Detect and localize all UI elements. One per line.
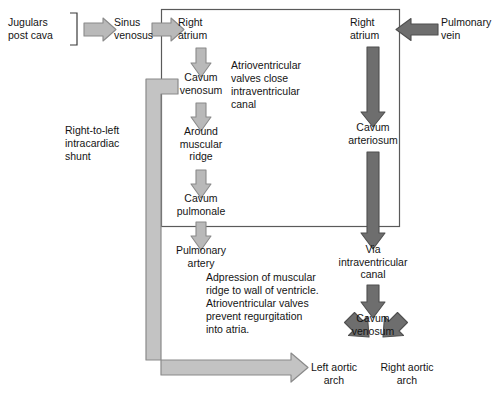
node-cavum-pulmonale: Cavum pulmonale bbox=[168, 192, 234, 217]
arrow-jugulars-to-sinus bbox=[84, 18, 116, 41]
node-around-muscular-ridge: Around muscular ridge bbox=[168, 125, 234, 163]
node-right-aortic-arch: Right aortic arch bbox=[372, 361, 442, 386]
arrow-right-atrium-to-cavum-arteriosum bbox=[361, 47, 385, 127]
node-right-atrium-right: Right atrium bbox=[350, 16, 396, 41]
node-jugulars-post-cava: Jugulars post cava bbox=[8, 16, 72, 41]
arrow-cavum-arteriosum-to-via-canal bbox=[361, 152, 385, 249]
node-sinus-venosus: Sinus venosus bbox=[114, 16, 158, 41]
annotation-av-valves-close: Atrioventricular valves close intraventr… bbox=[231, 59, 337, 111]
node-right-atrium-left: Right atrium bbox=[178, 16, 224, 41]
node-cavum-arteriosum: Cavum arteriosum bbox=[338, 121, 408, 146]
node-cavum-venosum-left: Cavum venosum bbox=[168, 71, 234, 96]
node-pulmonary-vein: Pulmonary vein bbox=[441, 16, 496, 41]
annotation-adpression: Adpression of muscular ridge to wall of … bbox=[206, 271, 356, 336]
node-left-aortic-arch: Left aortic arch bbox=[303, 361, 365, 386]
node-pulmonary-artery: Pulmonary artery bbox=[163, 244, 239, 269]
annotation-right-to-left-shunt: Right-to-left intracardiac shunt bbox=[65, 124, 151, 163]
arrow-pulmonary-vein-to-right-atrium bbox=[396, 19, 438, 41]
